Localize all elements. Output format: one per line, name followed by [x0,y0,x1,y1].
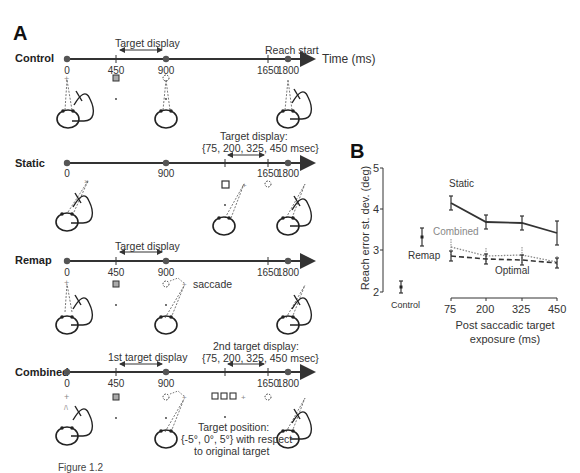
tick-900: 900 [151,168,181,179]
tick-1800: 1800 [273,168,303,179]
tick-450: 450 [101,378,131,389]
tick-900: 900 [151,267,181,278]
x-axis-label: Post saccadic target exposure (ms) [455,318,555,346]
time-axis-label: Time (ms) [322,52,376,66]
svg-text:+: + [64,392,69,402]
control-reach-start-label: Reach start [265,44,319,56]
x-tick-200: 200 [476,303,494,315]
tick-450: 450 [101,65,131,76]
svg-text:×: × [84,177,89,186]
svg-text:+: + [241,393,246,402]
combined-target-position-label: Target position: [198,421,269,433]
remap-saccade-label: saccade [193,278,232,290]
remap-target-display-label: Target display [115,240,180,252]
combined-original-target-label: to original target [194,445,269,457]
series-label-optimal: Optimal [495,265,529,276]
x-tick-325: 325 [512,303,530,315]
combined-first-display-label: 1st target display [108,351,187,363]
tick-0: 0 [52,378,82,389]
tick-450: 450 [101,267,131,278]
x-tick-450: 450 [548,303,566,315]
control-target-display-label: Target display [115,37,180,49]
tick-1800: 1800 [273,65,303,76]
y-tick-5: 5 [373,162,379,174]
combined-target-offsets-label: {-5°, 0°, 5°} with respect [181,433,292,445]
y-tick-4: 4 [373,203,379,215]
combined-second-display-label: 2nd target display: [213,340,299,352]
tick-0: 0 [52,65,82,76]
timeline-static: × + [56,155,312,235]
tick-1800: 1800 [273,378,303,389]
tick-900: 900 [151,378,181,389]
timeline-remap: + + [56,252,312,334]
timeline-control: + [57,50,312,128]
static-target-display-label: Target display: [220,130,288,142]
combined-durations-label: {75, 200, 325, 450 msec} [202,352,319,364]
svg-text:+: + [242,181,247,190]
series-label-combined: Combined [433,226,479,237]
static-durations-label: {75, 200, 325, 450 msec} [202,142,319,154]
x-tick-75: 75 [444,303,456,315]
svg-text:/\: /\ [64,404,68,411]
tick-0: 0 [52,267,82,278]
series-label-static: Static [449,178,474,189]
point-label-remap: Remap [408,250,440,261]
figure-caption: Figure 1.2 [58,462,103,473]
y-tick-3: 3 [373,244,379,256]
point-label-control: Control [391,300,420,310]
y-tick-2: 2 [373,286,379,298]
tick-0: 0 [52,168,82,179]
tick-900: 900 [151,65,181,76]
tick-1800: 1800 [273,267,303,278]
y-axis-label: Reach error st. dev. (deg) [359,153,371,303]
